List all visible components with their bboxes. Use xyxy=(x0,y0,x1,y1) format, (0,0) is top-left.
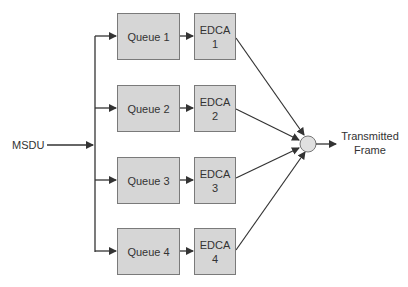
edca-1-box: EDCA1 xyxy=(194,13,236,60)
queue-4-label: Queue 4 xyxy=(127,245,169,259)
edca-2-number: 2 xyxy=(212,109,218,123)
edca-1-number: 1 xyxy=(212,37,218,51)
queue-2-box: Queue 2 xyxy=(117,85,180,132)
edca-4-number: 4 xyxy=(212,252,218,266)
edca-1-label: EDCA xyxy=(200,23,231,37)
queue-3-box: Queue 3 xyxy=(117,157,180,204)
queue-1-label: Queue 1 xyxy=(127,30,169,44)
queue-3-label: Queue 3 xyxy=(127,174,169,188)
edca-3-label: EDCA xyxy=(200,167,231,181)
edca-3-box: EDCA3 xyxy=(194,157,236,204)
merge-node xyxy=(300,136,316,152)
frame-text: Frame xyxy=(338,143,402,157)
transmitted-text: Transmitted xyxy=(338,129,402,143)
edca-2-label: EDCA xyxy=(200,95,231,109)
transmitted-frame-label: Transmitted Frame xyxy=(338,129,402,157)
queue-1-box: Queue 1 xyxy=(117,13,180,60)
msdu-label: MSDU xyxy=(12,138,44,152)
queue-4-box: Queue 4 xyxy=(117,228,180,275)
edca-4-label: EDCA xyxy=(200,238,231,252)
edca-2-box: EDCA2 xyxy=(194,85,236,132)
queue-2-label: Queue 2 xyxy=(127,102,169,116)
edca-3-number: 3 xyxy=(212,181,218,195)
edca-4-box: EDCA4 xyxy=(194,228,236,275)
